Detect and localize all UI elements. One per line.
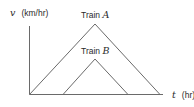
train-a-label: Train A	[81, 9, 109, 20]
y-axis-label: v (km/hr)	[10, 2, 48, 19]
x-axis-label: t (hr)	[172, 84, 194, 101]
velocity-time-diagram: v (km/hr) t (hr) Train A Train B	[0, 0, 194, 107]
train-b-label: Train B	[81, 45, 109, 56]
train-b-curve	[63, 59, 128, 95]
